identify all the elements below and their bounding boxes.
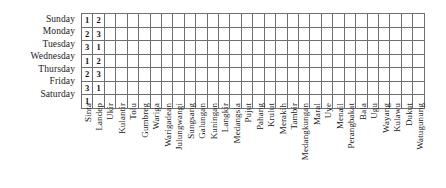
grid-cell[interactable]	[253, 27, 264, 41]
grid-cell[interactable]	[150, 54, 161, 68]
grid-cell[interactable]	[299, 54, 310, 68]
grid-cell[interactable]	[207, 54, 218, 68]
grid-cell[interactable]	[241, 81, 252, 95]
grid-cell[interactable]	[127, 68, 138, 82]
grid-cell[interactable]	[230, 41, 241, 55]
grid-cell[interactable]: 1	[93, 81, 104, 95]
grid-cell[interactable]	[139, 81, 150, 95]
grid-cell[interactable]	[196, 41, 207, 55]
grid-cell[interactable]	[299, 41, 310, 55]
grid-cell[interactable]	[161, 54, 172, 68]
grid-cell[interactable]	[184, 81, 195, 95]
grid-cell[interactable]	[264, 27, 275, 41]
grid-cell[interactable]	[184, 54, 195, 68]
grid-cell[interactable]	[310, 81, 321, 95]
grid-cell[interactable]	[276, 41, 287, 55]
grid-cell[interactable]	[367, 68, 378, 82]
grid-cell[interactable]	[401, 54, 412, 68]
grid-cell[interactable]	[230, 81, 241, 95]
grid-cell[interactable]	[321, 81, 332, 95]
grid-cell[interactable]	[413, 54, 425, 68]
grid-cell[interactable]	[173, 68, 184, 82]
grid-cell[interactable]	[104, 54, 115, 68]
grid-cell[interactable]	[241, 54, 252, 68]
grid-cell[interactable]	[401, 68, 412, 82]
grid-cell[interactable]	[333, 41, 344, 55]
grid-cell[interactable]	[150, 41, 161, 55]
grid-cell[interactable]	[230, 27, 241, 41]
grid-cell[interactable]	[253, 54, 264, 68]
grid-cell[interactable]	[116, 68, 127, 82]
grid-cell[interactable]	[310, 68, 321, 82]
grid-cell[interactable]	[299, 27, 310, 41]
grid-cell[interactable]: 3	[93, 27, 104, 41]
grid-cell[interactable]	[161, 68, 172, 82]
grid-cell[interactable]	[207, 81, 218, 95]
grid-cell[interactable]	[378, 27, 389, 41]
grid-cell[interactable]	[333, 81, 344, 95]
grid-cell[interactable]	[264, 54, 275, 68]
grid-cell[interactable]	[390, 14, 401, 28]
grid-cell[interactable]	[253, 81, 264, 95]
grid-cell[interactable]	[139, 68, 150, 82]
grid-cell[interactable]	[150, 27, 161, 41]
grid-cell[interactable]	[127, 14, 138, 28]
grid-cell[interactable]	[356, 27, 367, 41]
grid-cell[interactable]	[219, 68, 230, 82]
grid-cell[interactable]	[367, 41, 378, 55]
grid-cell[interactable]	[184, 41, 195, 55]
grid-cell[interactable]	[196, 14, 207, 28]
grid-cell[interactable]	[184, 27, 195, 41]
grid-cell[interactable]	[150, 68, 161, 82]
grid-cell[interactable]	[116, 54, 127, 68]
grid-cell[interactable]	[184, 68, 195, 82]
grid-cell[interactable]	[413, 68, 425, 82]
grid-cell[interactable]	[276, 27, 287, 41]
grid-cell[interactable]	[321, 14, 332, 28]
grid-cell[interactable]	[378, 41, 389, 55]
grid-cell[interactable]	[253, 68, 264, 82]
grid-cell[interactable]	[264, 68, 275, 82]
grid-cell[interactable]	[219, 81, 230, 95]
grid-cell[interactable]	[241, 41, 252, 55]
grid-cell[interactable]	[401, 27, 412, 41]
grid-cell[interactable]	[287, 41, 298, 55]
grid-cell[interactable]: 1	[82, 14, 93, 28]
grid-cell[interactable]	[104, 68, 115, 82]
grid-cell[interactable]	[390, 54, 401, 68]
grid-cell[interactable]	[127, 27, 138, 41]
grid-cell[interactable]: 2	[82, 68, 93, 82]
grid-cell[interactable]: 3	[82, 81, 93, 95]
grid-cell[interactable]	[276, 14, 287, 28]
grid-cell[interactable]	[287, 81, 298, 95]
grid-cell[interactable]	[356, 41, 367, 55]
grid-cell[interactable]	[150, 14, 161, 28]
grid-cell[interactable]: 2	[82, 27, 93, 41]
grid-cell[interactable]	[196, 27, 207, 41]
grid-cell[interactable]	[378, 81, 389, 95]
grid-cell[interactable]	[356, 81, 367, 95]
grid-cell[interactable]	[344, 14, 355, 28]
grid-cell[interactable]	[287, 68, 298, 82]
grid-cell[interactable]	[196, 68, 207, 82]
grid-cell[interactable]	[207, 41, 218, 55]
grid-cell[interactable]	[241, 14, 252, 28]
grid-cell[interactable]: 3	[93, 68, 104, 82]
grid-cell[interactable]	[390, 81, 401, 95]
grid-cell[interactable]	[219, 41, 230, 55]
grid-cell[interactable]	[127, 41, 138, 55]
grid-cell[interactable]	[344, 54, 355, 68]
grid-cell[interactable]	[356, 54, 367, 68]
grid-cell[interactable]	[127, 54, 138, 68]
grid-cell[interactable]	[253, 14, 264, 28]
grid-cell[interactable]	[299, 68, 310, 82]
grid-cell[interactable]	[241, 27, 252, 41]
grid-cell[interactable]	[161, 41, 172, 55]
grid-cell[interactable]	[344, 81, 355, 95]
grid-cell[interactable]	[287, 27, 298, 41]
grid-cell[interactable]: 2	[93, 14, 104, 28]
grid-cell[interactable]	[219, 54, 230, 68]
grid-cell[interactable]	[367, 14, 378, 28]
grid-cell[interactable]	[116, 27, 127, 41]
grid-cell[interactable]	[230, 14, 241, 28]
